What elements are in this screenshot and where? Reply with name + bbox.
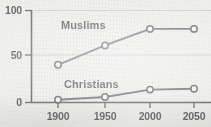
data-point-muslims-2000 xyxy=(147,26,153,32)
data-point-christians-1900 xyxy=(55,97,61,103)
line-chart-figure: 100 50 0 1900 1950 2000 2050 Muslims Chr… xyxy=(0,0,211,127)
series-label-christians: Christians xyxy=(64,78,119,90)
x-axis-tick-label-2000: 2000 xyxy=(125,110,175,122)
x-axis-tick-label-2050: 2050 xyxy=(169,110,211,122)
series-layer xyxy=(55,26,197,103)
data-point-christians-2000 xyxy=(147,86,153,92)
data-point-christians-1950 xyxy=(102,94,108,100)
y-axis-tick-label-50: 50 xyxy=(0,49,22,61)
y-axis-tick-label-0: 0 xyxy=(0,96,22,108)
y-axis-tick-label-100: 100 xyxy=(0,4,22,16)
series-line-muslims xyxy=(58,29,194,65)
data-point-christians-2050 xyxy=(191,86,197,92)
data-point-muslims-1900 xyxy=(55,62,61,68)
data-point-muslims-2050 xyxy=(191,26,197,32)
series-line-christians xyxy=(58,89,194,100)
x-axis-tick-label-1900: 1900 xyxy=(33,110,83,122)
data-point-muslims-1950 xyxy=(102,42,108,48)
series-label-muslims: Muslims xyxy=(61,19,106,31)
x-axis-tick-label-1950: 1950 xyxy=(80,110,130,122)
